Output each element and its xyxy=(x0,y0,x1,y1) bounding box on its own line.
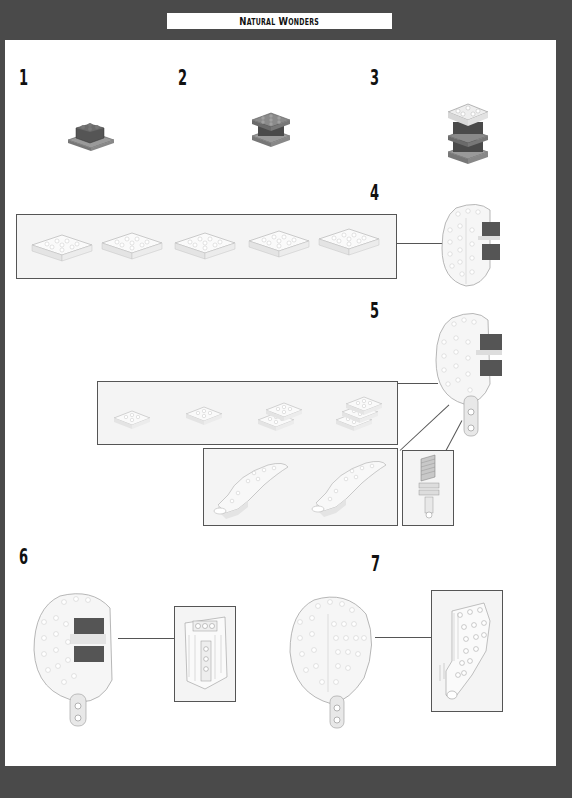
step4-substage-illustrations xyxy=(17,215,396,278)
step-number-5: 5 xyxy=(370,301,379,322)
step3-model-illustration xyxy=(446,100,490,168)
step1-model-illustration xyxy=(66,118,116,152)
step7-model-illustration xyxy=(286,592,386,732)
step5-curved-sections-illustration xyxy=(204,449,397,525)
step-number-6: 6 xyxy=(19,547,28,568)
step-number-3: 3 xyxy=(370,68,379,89)
header-title: Natural Wonders xyxy=(240,15,320,28)
step-number-1: 1 xyxy=(19,68,28,89)
step7-connector-line xyxy=(375,637,431,638)
step5-callout-box-a xyxy=(97,381,398,445)
header-bar: Natural Wonders xyxy=(167,13,392,29)
step5-substage-illustrations xyxy=(98,382,397,444)
step-number-7: 7 xyxy=(371,554,380,575)
step-number-2: 2 xyxy=(178,68,187,89)
step7-callout-box xyxy=(431,590,503,712)
step6-callout-box xyxy=(174,606,236,702)
step5-callout-box-c xyxy=(402,450,454,526)
step-number-4: 4 xyxy=(370,183,379,204)
step6-side-panel-illustration xyxy=(175,607,235,701)
step6-model-illustration xyxy=(30,590,130,730)
step6-connector-line xyxy=(118,638,174,639)
step2-model-illustration xyxy=(250,110,292,152)
step5-callout-box-b xyxy=(203,448,398,526)
step5-pin-piece-illustration xyxy=(403,451,453,525)
step4-callout-box xyxy=(16,214,397,279)
step4-model-illustration xyxy=(438,200,502,290)
step7-tapered-panel-illustration xyxy=(432,591,502,711)
step5-model-illustration xyxy=(430,308,510,448)
